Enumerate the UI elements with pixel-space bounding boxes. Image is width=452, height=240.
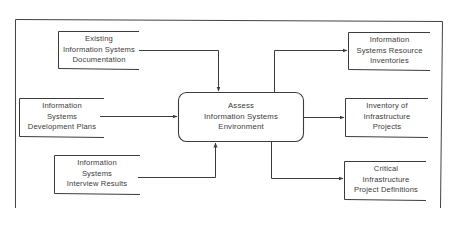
process-assess: Assess Information Systems Environment	[179, 101, 303, 133]
process-line-1: Assess	[179, 101, 303, 112]
interview-results-line-1: Information	[55, 158, 139, 169]
resource-inventories-line-3: Inventories	[349, 56, 430, 67]
edge-assess-to-critical-definitions	[272, 142, 344, 179]
dev-plans-line-2: Systems	[19, 112, 105, 123]
resource-inventories-line-1: Information	[349, 35, 430, 46]
dev-plans-line-3: Development Plans	[19, 122, 105, 133]
output-store-infra-projects: Inventory of Infrastructure Projects	[346, 101, 428, 133]
interview-results-line-3: Interview Results	[55, 179, 139, 190]
edge-assess-to-resource-inventories	[275, 51, 348, 93]
infra-projects-line-1: Inventory of	[346, 101, 428, 112]
dev-plans-line-1: Information	[19, 101, 105, 112]
infra-projects-line-3: Projects	[346, 122, 428, 133]
input-store-dev-plans: Information Systems Development Plans	[19, 101, 105, 133]
edge-interview-results-to-assess	[138, 143, 216, 178]
edge-existing-docs-to-assess	[139, 51, 219, 92]
existing-docs-line-2: Information Systems	[58, 45, 140, 56]
interview-results-line-2: Systems	[55, 169, 139, 180]
existing-docs-line-3: Documentation	[58, 55, 140, 66]
resource-inventories-line-2: Systems Resource	[349, 46, 430, 57]
input-store-existing-docs: Existing Information Systems Documentati…	[58, 34, 140, 66]
existing-docs-line-1: Existing	[58, 34, 140, 45]
output-store-resource-inventories: Information Systems Resource Inventories	[349, 35, 430, 67]
critical-definitions-line-1: Critical	[344, 164, 428, 175]
process-line-3: Environment	[179, 122, 303, 133]
process-line-2: Information Systems	[179, 112, 303, 123]
infra-projects-line-2: Infrastructure	[346, 112, 428, 123]
output-store-critical-definitions: Critical Infrastructure Project Definiti…	[344, 164, 428, 196]
critical-definitions-line-3: Project Definitions	[344, 185, 428, 196]
input-store-interview-results: Information Systems Interview Results	[55, 158, 139, 190]
critical-definitions-line-2: Infrastructure	[344, 175, 428, 186]
